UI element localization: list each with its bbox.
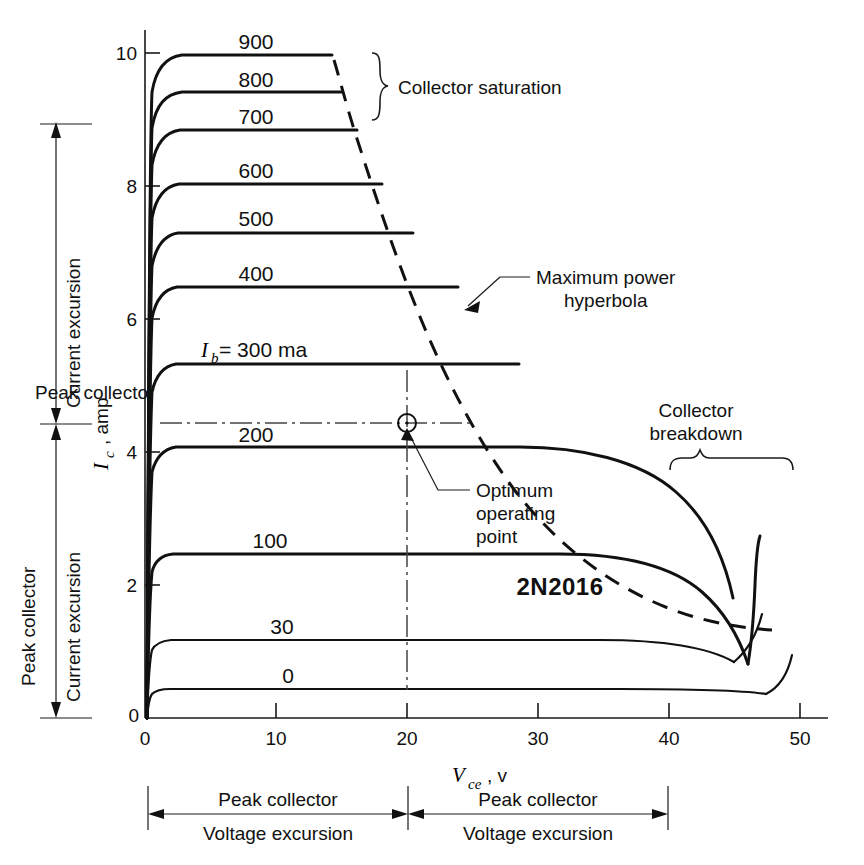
x-tick-label-10: 10 [265, 728, 286, 749]
x-axis-title-main: V [452, 763, 467, 787]
curve-label-900: 900 [238, 30, 273, 53]
optimum-label-line1: Optimum [476, 480, 553, 501]
curve-label-700: 700 [238, 105, 273, 128]
y-tick-label-2: 2 [126, 575, 137, 596]
y-axis-title-sub: c [101, 451, 117, 458]
x-tick-label-0: 0 [140, 728, 151, 749]
y-axis-title-main: I [89, 462, 113, 471]
y-tick-label-4: 4 [126, 442, 137, 463]
collector-breakdown-label-line1: Collector [659, 400, 735, 421]
voltage-dim-left-label-line2: Voltage excursion [203, 823, 353, 844]
curve-label-600: 600 [238, 159, 273, 182]
y-tick-label-6: 6 [126, 309, 137, 330]
curve-label-400: 400 [238, 262, 273, 285]
current-dim-lower-label-line2: Current excursion [63, 552, 84, 702]
current-dim-lower-label-line1: Peak collector [18, 566, 39, 686]
y-axis-title-unit: , amp [91, 397, 112, 445]
ib-label-main: I [200, 338, 209, 362]
y-tick-label-0: 0 [128, 705, 139, 726]
x-tick-label-50: 50 [789, 728, 810, 749]
curve-label-500: 500 [238, 207, 273, 230]
x-tick-label-30: 30 [527, 728, 548, 749]
max-power-label-line2: hyperbola [564, 290, 648, 311]
curve-label-0: 0 [282, 664, 294, 687]
optimum-label-line3: point [476, 526, 518, 547]
curve-label-30: 30 [270, 615, 293, 638]
current-dim-upper-label-line1: Peak collector [35, 382, 155, 403]
ib-label-sub: b [211, 350, 219, 366]
collector-saturation-label: Collector saturation [398, 77, 562, 98]
optimum-label-line2: operating [476, 503, 555, 524]
current-dim-upper-label-line2: Current excursion [63, 258, 84, 408]
transistor-characteristic-chart: 10 8 6 4 2 0 0 10 20 30 40 50 V ce , v I… [0, 0, 864, 865]
collector-breakdown-label-line2: breakdown [650, 423, 743, 444]
optimum-point-center-dot [405, 421, 408, 424]
curve-label-100: 100 [252, 529, 287, 552]
y-tick-label-10: 10 [116, 43, 137, 64]
voltage-dim-right-label-line2: Voltage excursion [463, 823, 613, 844]
x-axis-title-unit: , v [487, 765, 508, 786]
curve-label-800: 800 [238, 68, 273, 91]
y-tick-label-8: 8 [126, 176, 137, 197]
ib-label-rest: = 300 ma [219, 338, 307, 361]
x-tick-label-40: 40 [658, 728, 679, 749]
voltage-dim-right-label-line1: Peak collector [478, 789, 598, 810]
curve-label-200: 200 [238, 423, 273, 446]
part-number-label: 2N2016 [516, 573, 603, 600]
x-tick-label-20: 20 [396, 728, 417, 749]
max-power-label-line1: Maximum power [536, 267, 676, 288]
voltage-dim-left-label-line1: Peak collector [218, 789, 338, 810]
